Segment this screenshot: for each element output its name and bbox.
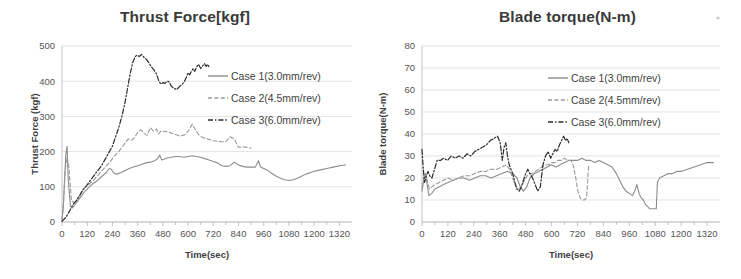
x-axis-title: Time(sec) xyxy=(549,249,593,260)
x-axis-tick-label: 120 xyxy=(440,228,456,239)
x-axis-tick-label: 0 xyxy=(419,228,424,239)
y-axis-tick-label: 400 xyxy=(39,76,55,87)
chart-panel-thrust-force: Thrust Force[kgf] 0100200300400500012024… xyxy=(0,0,370,279)
x-axis-tick-label: 720 xyxy=(570,228,586,239)
y-axis-tick-label: 70 xyxy=(404,62,415,73)
legend-label-case1: Case 1(3.0mm/rev) xyxy=(231,70,321,82)
y-axis-tick-label: 80 xyxy=(404,40,415,51)
y-axis-tick-label: 200 xyxy=(39,146,55,157)
y-axis-tick-label: 60 xyxy=(404,84,415,95)
legend-label-case2: Case 2(4.5mm/rev) xyxy=(571,94,661,106)
x-axis-tick-label: 240 xyxy=(466,228,482,239)
y-axis-tick-label: 500 xyxy=(39,40,55,51)
y-axis-tick-label: 30 xyxy=(404,150,415,161)
legend-label-case3: Case 3(6.0mm/rev) xyxy=(571,116,661,128)
figure-container: Thrust Force[kgf] 0100200300400500012024… xyxy=(0,0,741,279)
x-axis-tick-label: 120 xyxy=(79,228,95,239)
series-line-case1 xyxy=(62,146,346,220)
y-axis-tick-label: 50 xyxy=(404,106,415,117)
x-axis-tick-label: 720 xyxy=(205,228,221,239)
legend-label-case3: Case 3(6.0mm/rev) xyxy=(231,114,321,126)
series-line-case2 xyxy=(422,158,589,200)
x-axis-tick-label: 360 xyxy=(492,228,508,239)
chart-svg-thrust-force: 0100200300400500012024036048060072084096… xyxy=(0,0,370,279)
x-axis-tick-label: 1200 xyxy=(304,228,325,239)
x-axis-tick-label: 600 xyxy=(544,228,560,239)
y-axis-tick-label: 300 xyxy=(39,111,55,122)
x-axis-tick-label: 960 xyxy=(621,228,637,239)
x-axis-tick-label: 240 xyxy=(105,228,121,239)
x-axis-tick-label: 1080 xyxy=(278,228,299,239)
x-axis-tick-label: 840 xyxy=(595,228,611,239)
x-axis-tick-label: 360 xyxy=(130,228,146,239)
y-axis-title: Thrust Force (kgf) xyxy=(29,93,40,174)
y-axis-tick-label: 0 xyxy=(50,216,55,227)
x-axis-tick-label: 480 xyxy=(518,228,534,239)
legend-label-case1: Case 1(3.0mm/rev) xyxy=(571,72,661,84)
legend-label-case2: Case 2(4.5mm/rev) xyxy=(231,92,321,104)
y-axis-tick-label: 20 xyxy=(404,172,415,183)
series-line-case1 xyxy=(422,158,714,209)
y-axis-tick-label: 100 xyxy=(39,181,55,192)
x-axis-tick-label: 1320 xyxy=(329,228,350,239)
y-axis-title: Blade torque(N-m) xyxy=(377,93,388,176)
chart-panel-blade-torque: Blade torque(N-m) 0102030405060708001202… xyxy=(370,0,741,279)
x-axis-tick-label: 1200 xyxy=(671,228,692,239)
x-axis-tick-label: 0 xyxy=(59,228,64,239)
x-axis-tick-label: 960 xyxy=(256,228,272,239)
x-axis-tick-label: 1320 xyxy=(696,228,717,239)
series-line-case3 xyxy=(62,54,209,221)
y-axis-tick-label: 10 xyxy=(404,194,415,205)
x-axis-tick-label: 840 xyxy=(231,228,247,239)
series-line-case2 xyxy=(62,124,251,220)
x-axis-tick-label: 1080 xyxy=(645,228,666,239)
x-axis-tick-label: 480 xyxy=(155,228,171,239)
x-axis-title: Time(sec) xyxy=(185,249,229,260)
y-axis-tick-label: 40 xyxy=(404,128,415,139)
y-axis-tick-label: 0 xyxy=(410,216,415,227)
series-line-case3 xyxy=(422,136,569,191)
x-axis-tick-label: 600 xyxy=(180,228,196,239)
chart-svg-blade-torque: 0102030405060708001202403604806007208409… xyxy=(370,0,741,279)
